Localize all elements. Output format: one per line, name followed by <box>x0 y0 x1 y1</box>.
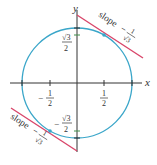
svg-text:√3: √3 <box>62 33 70 42</box>
svg-text:√3: √3 <box>121 34 132 45</box>
svg-text:2: 2 <box>64 125 68 134</box>
svg-text:−: − <box>38 93 43 103</box>
tangent-point-lower <box>48 129 52 133</box>
svg-text:2: 2 <box>48 99 52 108</box>
svg-text:−: − <box>54 119 59 129</box>
svg-text:−: − <box>31 125 41 136</box>
svg-text:slope: slope <box>97 9 119 28</box>
tick-label-y-neg-root3-over-2: − √3 2 <box>54 114 72 134</box>
svg-text:√3: √3 <box>62 114 70 123</box>
svg-text:1: 1 <box>102 89 106 98</box>
unit-circle-diagram: y x − 1 2 1 2 √3 2 − √3 2 slope − 1 √3 s… <box>0 0 157 165</box>
svg-text:1: 1 <box>48 89 52 98</box>
tick-label-x-neg-half: − 1 2 <box>38 89 54 108</box>
tick-label-y-root3-over-2: √3 2 <box>62 33 72 53</box>
y-axis-label: y <box>72 2 78 14</box>
svg-text:−: − <box>119 23 129 34</box>
svg-text:2: 2 <box>102 99 106 108</box>
svg-text:√3: √3 <box>33 136 44 147</box>
x-axis-label: x <box>144 76 150 88</box>
svg-text:2: 2 <box>64 44 68 53</box>
svg-text:slope: slope <box>9 111 31 130</box>
tangent-point-upper <box>102 33 106 37</box>
tick-label-x-pos-half: 1 2 <box>100 89 108 108</box>
slope-label-lower: slope − 1 √3 <box>6 110 52 149</box>
